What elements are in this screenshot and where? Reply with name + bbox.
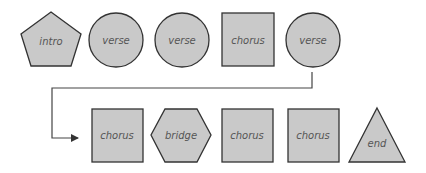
song-structure-diagram: intro verse verse chorus verse chorus br… — [0, 0, 426, 173]
node-label: verse — [102, 35, 130, 46]
node-chorus-4: chorus — [288, 109, 339, 162]
diagram-svg: intro verse verse chorus verse chorus br… — [0, 0, 426, 173]
node-chorus-3: chorus — [222, 109, 273, 162]
node-verse-1: verse — [89, 13, 143, 67]
node-label: intro — [39, 36, 62, 47]
node-intro: intro — [21, 12, 81, 66]
node-label: chorus — [230, 130, 264, 141]
node-label: chorus — [100, 130, 134, 141]
node-label: verse — [299, 35, 327, 46]
node-label: chorus — [231, 35, 265, 46]
node-label: chorus — [296, 130, 330, 141]
node-verse-2: verse — [155, 13, 209, 67]
node-chorus-2: chorus — [92, 109, 143, 162]
node-label: verse — [168, 35, 196, 46]
node-label: bridge — [165, 130, 197, 141]
node-chorus-1: chorus — [222, 13, 274, 66]
node-end: end — [349, 108, 405, 162]
node-label: end — [368, 138, 387, 149]
triangle-icon — [349, 108, 405, 162]
node-bridge: bridge — [151, 109, 211, 162]
node-verse-3: verse — [286, 13, 340, 67]
